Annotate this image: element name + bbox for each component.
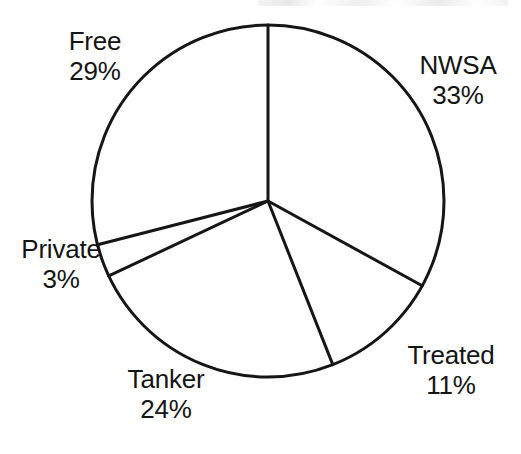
pie-label-private: Private 3%: [0, 234, 124, 294]
pie-label-treated: Treated 11%: [382, 340, 520, 400]
pie-label-free: Free 29%: [36, 26, 154, 86]
pie-label-tanker-name: Tanker: [96, 364, 236, 394]
pie-label-treated-percent: 11%: [382, 370, 520, 400]
pie-label-nwsa: NWSA 33%: [396, 50, 520, 110]
pie-label-free-name: Free: [36, 26, 154, 56]
pie-label-tanker: Tanker 24%: [96, 364, 236, 424]
pie-label-nwsa-percent: 33%: [396, 80, 520, 110]
pie-chart-figure: Free 29% NWSA 33% Private 3% Treated 11%…: [0, 0, 521, 454]
pie-label-private-name: Private: [0, 234, 124, 264]
pie-label-private-percent: 3%: [0, 264, 124, 294]
pie-label-tanker-percent: 24%: [96, 394, 236, 424]
pie-label-free-percent: 29%: [36, 56, 154, 86]
pie-label-nwsa-name: NWSA: [396, 50, 520, 80]
pie-label-treated-name: Treated: [382, 340, 520, 370]
